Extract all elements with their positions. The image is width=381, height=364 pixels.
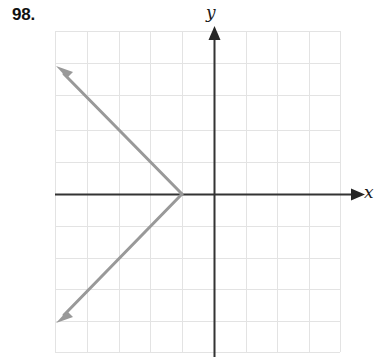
coordinate-plane [0, 0, 381, 364]
figure-root: 98. [0, 0, 381, 364]
x-axis-arrowhead-icon [351, 189, 365, 201]
y-axis-arrowhead-icon [209, 26, 221, 40]
coordinate-plane-svg [0, 0, 381, 364]
y-axis-label: y [206, 4, 216, 21]
grid-lines [55, 31, 341, 353]
x-axis-label: x [364, 184, 374, 201]
graph-ray-upper [64, 74, 182, 194]
graph-ray-lower [64, 194, 182, 315]
axes [55, 26, 365, 357]
